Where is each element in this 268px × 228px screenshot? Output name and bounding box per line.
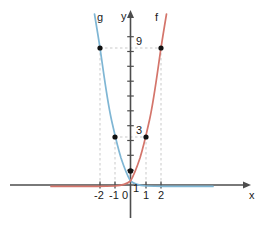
y-value-label-1: 1 [133,183,139,194]
y-axis-label: y [121,11,127,22]
point-minus2-9 [97,45,102,50]
x-tick-label-zero: 0 [122,190,128,201]
x-tick-label-one: 1 [143,190,149,201]
point-2-9 [158,45,163,50]
point-minus1-3 [112,134,117,139]
x-tick-label-two: 2 [158,190,164,201]
curve-f [51,14,167,186]
point-1-3 [143,134,148,139]
x-tick-label-minus-two: -2 [94,190,104,201]
curve-label-f: f [155,12,158,23]
curve-label-g: g [97,12,103,23]
exponential-functions-graph: g f y x 9 3 1 -2 -1 0 1 2 [0,0,268,228]
point-0-1 [128,168,134,174]
y-axis-arrow-icon [127,10,134,18]
y-value-label-9: 9 [136,36,142,47]
x-axis-arrow-icon [243,181,251,188]
x-axis-label: x [249,190,255,201]
y-value-label-3: 3 [136,125,142,136]
x-tick-label-minus-one: -1 [109,190,119,201]
curve-f-path [51,14,167,186]
